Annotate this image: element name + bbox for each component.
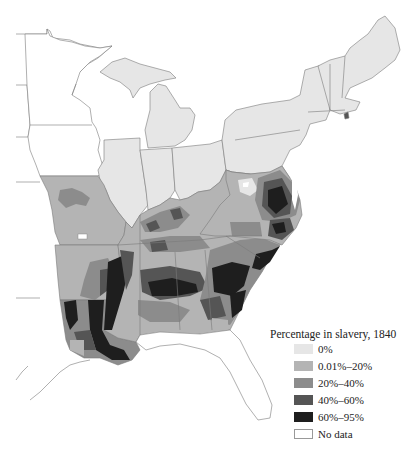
legend-swatch-60-95pct (294, 412, 313, 422)
south-atlantic (200, 238, 280, 330)
legend-item-40-60pct: 40%–60% (294, 392, 405, 408)
legend-label: 40%–60% (318, 394, 364, 406)
legend-label: 60%–95% (318, 411, 364, 423)
legend: Percentage in slavery, 1840 0% 0.01%–20%… (272, 328, 405, 442)
legend-item-0-20pct: 0.01%–20% (294, 358, 405, 374)
legend-swatch-20-40pct (294, 378, 313, 388)
legend-item-no-data: No data (294, 426, 405, 442)
legend-swatch-40-60pct (294, 395, 313, 405)
legend-label: 20%–40% (318, 377, 364, 389)
northeast (222, 16, 400, 178)
legend-label: 0.01%–20% (318, 360, 372, 372)
legend-swatch-no-data (294, 429, 313, 439)
legend-item-60-95pct: 60%–95% (294, 409, 405, 425)
legend-swatch-0pct (294, 344, 313, 354)
legend-item-20-40pct: 20%–40% (294, 375, 405, 391)
legend-title: Percentage in slavery, 1840 (270, 328, 405, 340)
legend-swatch-0-20pct (294, 361, 313, 371)
legend-label: No data (318, 428, 353, 440)
florida-and-texas-coast (16, 330, 272, 420)
legend-item-0pct: 0% (294, 341, 405, 357)
michigan (100, 58, 195, 148)
northwest-no-data (25, 29, 112, 176)
legend-label: 0% (318, 343, 333, 355)
